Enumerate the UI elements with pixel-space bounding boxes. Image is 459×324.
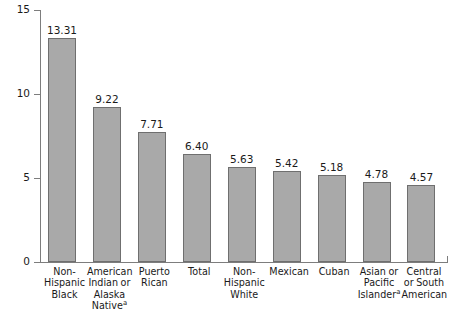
x-axis-category-label: Non-HispanicBlack: [42, 266, 87, 300]
bar-group: 4.57: [401, 10, 446, 262]
bar-group: 5.63: [222, 10, 267, 262]
bar-group: 5.42: [267, 10, 312, 262]
bar-value-label: 7.71: [128, 118, 176, 130]
plot-area: 13.319.227.716.405.635.425.184.784.57: [40, 10, 448, 262]
bar: [93, 107, 121, 262]
x-axis-category-label: PuertoRican: [132, 266, 177, 289]
bar-chart: Rate per 1,000 live births 051015 13.319…: [0, 0, 459, 324]
x-axis-category-label: Cuban: [312, 266, 357, 277]
x-axis-category-label: Asian orPacificIslandera: [357, 266, 402, 300]
bar-value-label: 13.31: [38, 24, 86, 36]
bar-value-label: 5.42: [263, 157, 311, 169]
bar: [228, 167, 256, 262]
bar-value-label: 6.40: [173, 140, 221, 152]
y-axis-tick-label: 10: [0, 88, 30, 99]
x-axis-category-label: Centralor SouthAmerican: [401, 266, 446, 300]
bar-group: 13.31: [42, 10, 87, 262]
x-axis-category-label: Non-HispanicWhite: [222, 266, 267, 300]
bar-group: 6.40: [177, 10, 222, 262]
bar: [183, 154, 211, 262]
bar: [318, 175, 346, 262]
bar: [138, 132, 166, 262]
x-axis-labels: Non-HispanicBlackAmericanIndian orAlaska…: [40, 266, 448, 324]
bar-group: 9.22: [87, 10, 132, 262]
y-axis-tick: [34, 262, 40, 263]
y-axis-tick-label: 5: [0, 172, 30, 183]
x-axis-line: [40, 262, 448, 263]
x-axis-category-label: Total: [177, 266, 222, 277]
bar-group: 5.18: [312, 10, 357, 262]
bar-group: 4.78: [357, 10, 402, 262]
bar-value-label: 4.78: [353, 168, 401, 180]
x-axis-category-label: AmericanIndian orAlaskaNativea: [87, 266, 132, 312]
y-axis-tick-label: 0: [0, 256, 30, 267]
bar-value-label: 5.18: [308, 161, 356, 173]
bar: [363, 182, 391, 262]
bar: [273, 171, 301, 262]
bar-value-label: 5.63: [218, 153, 266, 165]
bar: [407, 185, 435, 262]
y-axis-tick-label: 15: [0, 4, 30, 15]
bar-group: 7.71: [132, 10, 177, 262]
footnote-marker: a: [123, 299, 127, 307]
footnote-marker: a: [396, 288, 400, 296]
bar: [48, 38, 76, 262]
bar-value-label: 9.22: [83, 93, 131, 105]
x-axis-category-label: Mexican: [267, 266, 312, 277]
bar-value-label: 4.57: [397, 171, 445, 183]
